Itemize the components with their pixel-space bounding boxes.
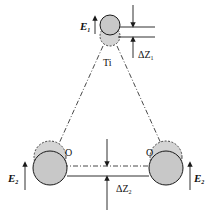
left-point-label: O bbox=[65, 147, 72, 158]
top-force-label: E1 bbox=[79, 20, 90, 33]
right-force-label: E2 bbox=[193, 172, 204, 185]
top-ball bbox=[100, 15, 120, 35]
right-ball bbox=[149, 151, 183, 185]
left-force-label: E2 bbox=[7, 172, 18, 185]
top-reference-lines bbox=[118, 27, 155, 37]
top-displacement-label: ΔZ1 bbox=[138, 49, 154, 61]
three-point-displacement-diagram: E1 ΔZ1 Ti O O E2 E2 ΔZ2 bbox=[0, 0, 214, 210]
right-point-label: O bbox=[146, 147, 153, 158]
left-ball bbox=[33, 151, 67, 185]
bottom-displacement-label: ΔZ2 bbox=[116, 183, 132, 195]
top-point-label: Ti bbox=[103, 57, 112, 68]
